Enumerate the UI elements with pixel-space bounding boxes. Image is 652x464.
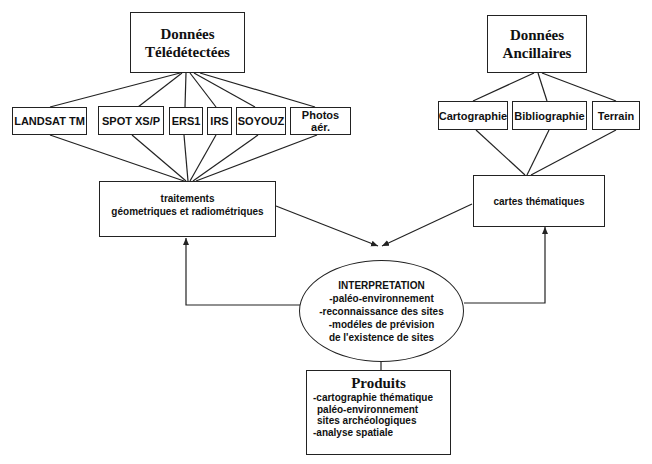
thematic-maps-label: cartes thématiques bbox=[493, 195, 584, 208]
interpretation-title: INTERPRETATION bbox=[338, 279, 424, 292]
products-box: Produits -cartographie thématique paléo-… bbox=[306, 370, 451, 455]
processing-line1: traitements bbox=[161, 192, 215, 205]
source-label: Photos aér. bbox=[291, 109, 350, 133]
source-label: Terrain bbox=[598, 110, 634, 122]
source-terrain: Terrain bbox=[592, 101, 640, 130]
source-irs: IRS bbox=[207, 107, 232, 135]
source-soyouz: SOYOUZ bbox=[236, 107, 286, 135]
source-cartographie: Cartographie bbox=[438, 101, 508, 130]
interpretation-item: -reconnaissance des sites bbox=[319, 305, 444, 318]
products-item: -analyse spatiale bbox=[313, 427, 444, 439]
source-label: LANDSAT TM bbox=[14, 115, 85, 127]
interpretation-item: -paléo-environnement bbox=[329, 292, 433, 305]
products-item: sites archéologiques bbox=[313, 415, 444, 427]
source-label: Cartographie bbox=[439, 110, 507, 122]
source-bibliographie: Bibliographie bbox=[512, 101, 587, 130]
processing-box: traitements géometriques et radiométriqu… bbox=[99, 181, 276, 237]
source-label: ERS1 bbox=[172, 115, 201, 127]
processing-line2: géometriques et radiométriques bbox=[111, 205, 263, 218]
ancillary-title-line1: Données bbox=[510, 26, 564, 44]
flow-diagram: Données Télédétectées LANDSAT TM SPOT XS… bbox=[0, 0, 652, 464]
source-label: SPOT XS/P bbox=[102, 115, 160, 127]
interpretation-item: -modéles de prévision bbox=[329, 318, 435, 331]
products-item: -cartographie thématique bbox=[313, 392, 444, 404]
source-label: IRS bbox=[210, 115, 228, 127]
remote-sensing-title-line1: Données bbox=[160, 25, 214, 43]
ancillary-data-box: Données Ancillaires bbox=[487, 15, 587, 73]
remote-sensing-title-line2: Télédétectées bbox=[145, 43, 230, 61]
remote-sensing-data-box: Données Télédétectées bbox=[130, 12, 245, 73]
interpretation-ellipse: INTERPRETATION -paléo-environnement -rec… bbox=[299, 260, 464, 362]
source-label: Bibliographie bbox=[514, 110, 584, 122]
source-spot-xsp: SPOT XS/P bbox=[98, 106, 164, 135]
interpretation-item: de l'existence de sites bbox=[329, 331, 434, 344]
source-ers1: ERS1 bbox=[169, 107, 203, 135]
ancillary-title-line2: Ancillaires bbox=[503, 44, 572, 62]
products-title: Produits bbox=[313, 375, 444, 391]
thematic-maps-box: cartes thématiques bbox=[473, 175, 605, 227]
source-photos-aer: Photos aér. bbox=[290, 107, 351, 135]
source-label: SOYOUZ bbox=[238, 115, 284, 127]
products-item: paléo-environnement bbox=[313, 404, 444, 416]
source-landsat-tm: LANDSAT TM bbox=[12, 107, 87, 135]
